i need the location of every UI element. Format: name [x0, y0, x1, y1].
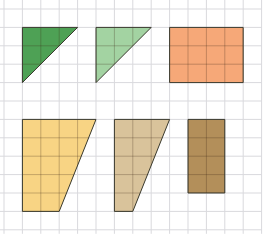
grid-diagram: [0, 0, 266, 244]
shapes-layer: [0, 0, 266, 244]
